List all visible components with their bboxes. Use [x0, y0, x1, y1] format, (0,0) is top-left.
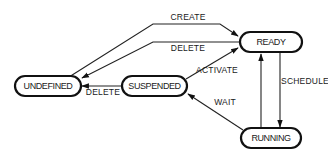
state-diagram: READY RUNNING SUSPENDED UNDEFINED CREATE… — [0, 0, 328, 154]
node-running-label: RUNNING — [251, 133, 291, 143]
edge-label-delete-suspended: DELETE — [86, 87, 120, 97]
edge-label-create: CREATE — [170, 12, 205, 22]
node-ready: READY — [240, 32, 302, 52]
node-undefined-label: UNDEFINED — [24, 81, 74, 91]
edge-label-schedule: SCHEDULE — [281, 76, 328, 86]
node-running: RUNNING — [241, 128, 301, 148]
node-ready-label: READY — [256, 37, 285, 47]
edge-label-wait: WAIT — [214, 97, 236, 107]
node-suspended-label: SUSPENDED — [128, 81, 181, 91]
node-suspended: SUSPENDED — [122, 76, 187, 96]
edge-label-activate: ACTIVATE — [196, 65, 238, 75]
node-undefined: UNDEFINED — [15, 76, 81, 96]
edge-label-delete-ready: DELETE — [171, 43, 205, 53]
